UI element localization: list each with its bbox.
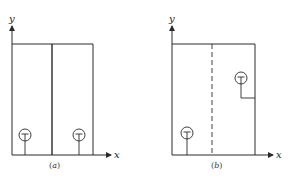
caption-b: (b) xyxy=(211,161,222,170)
caption-a: (a) xyxy=(49,161,60,170)
charge-symbol-b2 xyxy=(235,72,255,98)
x-axis-label-a: x xyxy=(114,149,120,160)
diagram-canvas: y x (a) y x xyxy=(0,0,290,185)
charge-symbol-a2 xyxy=(73,129,85,155)
y-axis-label-a: y xyxy=(8,13,15,24)
charge-symbol-a1 xyxy=(19,129,31,155)
x-axis-label-b: x xyxy=(276,149,282,160)
figure-a: y x (a) xyxy=(8,13,120,170)
y-axis-label-b: y xyxy=(168,13,175,24)
figure-b: y x (b) xyxy=(168,13,282,170)
charge-symbol-b1 xyxy=(181,127,193,155)
